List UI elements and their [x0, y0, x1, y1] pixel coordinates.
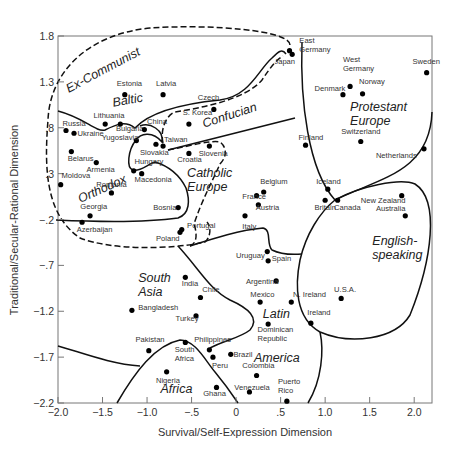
data-marker — [308, 321, 313, 326]
country-label: U.S.A. — [334, 285, 356, 294]
country-label: Netherlands — [376, 151, 417, 160]
country-label: West — [343, 55, 361, 64]
data-marker — [63, 128, 68, 133]
data-marker — [254, 373, 259, 378]
country-point: Italy — [242, 213, 256, 230]
data-marker — [142, 127, 147, 132]
x-tick-label: −.5 — [184, 406, 199, 418]
country-label: Puerto — [278, 377, 300, 386]
country-label: Belarus — [68, 154, 94, 163]
baltic-boundary — [58, 51, 286, 130]
country-point: Uruguay — [236, 249, 270, 260]
y-tick-label: −.7 — [39, 259, 54, 271]
data-marker — [403, 213, 408, 218]
country-label: Portugal — [187, 221, 216, 230]
data-marker — [289, 299, 294, 304]
country-label: Armenia — [86, 165, 115, 174]
region-label: ProtestantEurope — [350, 100, 408, 128]
country-label: Canada — [334, 203, 361, 212]
data-marker — [339, 296, 344, 301]
region-label-text: Africa — [159, 382, 192, 396]
x-tick-label: 0 — [233, 406, 239, 418]
x-tick-label: 2.0 — [407, 406, 422, 418]
cultural-map-chart: −2.0−1.5−1.0−.50.51.01.52.01.81.3.8.3−.2… — [0, 0, 458, 455]
country-label: Norway — [359, 77, 385, 86]
country-label: Yugoslavia — [102, 133, 140, 142]
country-label: Switzerland — [341, 127, 380, 136]
y-tick-label: −2.2 — [33, 397, 54, 409]
country-point: Iceland — [316, 177, 341, 192]
country-point: Bulgaria — [116, 121, 145, 132]
data-marker — [87, 213, 92, 218]
region-label: English-speaking — [372, 234, 422, 262]
country-label: Brazil — [233, 350, 252, 359]
axis-ticks: −2.0−1.5−1.0−.50.51.01.52.01.81.3.8.3−.2… — [33, 30, 421, 418]
country-label: Sweden — [412, 57, 439, 66]
south-asia-boundary — [178, 246, 254, 348]
y-tick-label: −1.7 — [33, 351, 54, 363]
country-label: Taiwan — [164, 135, 188, 144]
country-label: Bosnia — [153, 203, 177, 212]
country-point: Georgia — [80, 202, 108, 218]
region-label: Africa — [159, 382, 192, 396]
country-point: Bosnia — [153, 203, 181, 212]
country-label: Ghana — [203, 389, 227, 398]
region-label: SouthAsia — [137, 271, 171, 299]
country-label: Dominican — [257, 325, 293, 334]
y-tick-label: .8 — [45, 122, 54, 134]
country-label: Estonia — [117, 79, 143, 88]
country-point: Brazil — [228, 350, 253, 359]
data-marker — [207, 347, 212, 352]
region-label: CatholicEurope — [187, 166, 233, 194]
country-label: Germany — [299, 45, 330, 54]
region-label-text: Catholic — [187, 166, 233, 180]
country-point: Switzerland — [341, 127, 380, 144]
data-marker — [129, 308, 134, 313]
country-point: Belarus — [68, 149, 94, 163]
region-label: Confucian — [201, 100, 259, 131]
country-point: Ghana — [203, 385, 227, 398]
region-label-text: Baltic — [111, 90, 144, 109]
south-asia-lower-boundary — [58, 346, 140, 366]
country-point: Ireland — [307, 308, 330, 326]
region-label-text: Europe — [187, 180, 227, 194]
country-label: Chile — [202, 285, 219, 294]
data-marker — [207, 144, 212, 149]
data-marker — [360, 91, 365, 96]
country-label: Czech — [198, 93, 220, 102]
data-marker — [258, 299, 263, 304]
country-label: Slovenia — [199, 149, 229, 158]
data-marker — [153, 142, 158, 147]
data-marker — [79, 220, 84, 225]
country-label: South — [175, 345, 195, 354]
country-point: Philippines — [194, 335, 231, 353]
country-label: Uruguay — [236, 251, 265, 260]
country-label: Moldova — [62, 171, 91, 180]
country-point: Chile — [198, 285, 220, 300]
data-marker — [58, 182, 63, 187]
country-point: U.S.A. — [334, 285, 356, 301]
country-point: Spain — [266, 254, 292, 264]
region-label-text: South — [138, 271, 171, 285]
country-label: Peru — [212, 361, 228, 370]
country-label: Africa — [175, 354, 195, 363]
country-label: Britain — [314, 203, 336, 212]
data-marker — [335, 198, 340, 203]
country-point: Venezuela — [234, 383, 270, 394]
region-label: America — [253, 351, 300, 365]
region-labels: Ex-CommunistBalticConfucianOrthodoxCatho… — [64, 44, 423, 395]
region-label: Latin — [263, 307, 290, 321]
x-tick-label: −1.5 — [92, 406, 113, 418]
country-point: Moldova — [58, 171, 91, 187]
country-label: Macedonia — [135, 175, 173, 184]
country-point: New Zealand — [361, 193, 406, 205]
country-label: India — [182, 279, 199, 288]
country-point: EastGermany — [287, 36, 331, 54]
data-marker — [358, 139, 363, 144]
country-label: Hungary — [135, 157, 164, 166]
x-tick-label: 1.0 — [318, 406, 333, 418]
country-label: Lithuania — [94, 111, 126, 120]
country-point: Poland — [156, 230, 183, 243]
country-label: China — [147, 117, 168, 126]
region-label-text: Confucian — [201, 100, 259, 131]
